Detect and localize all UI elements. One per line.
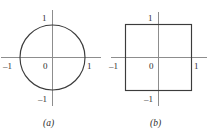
x-axis-tick-label-negative-a: –1 bbox=[3, 62, 12, 71]
y-axis-tick-label-positive-a: 1 bbox=[42, 14, 46, 23]
figure-sheet: 1 –1 0 1 –1 (a) 1 –1 0 1 –1 (b) bbox=[0, 0, 213, 135]
origin-label-a: 0 bbox=[43, 62, 47, 71]
x-axis-tick-label-negative-b: –1 bbox=[109, 62, 118, 71]
y-axis-tick-label-negative-a: –1 bbox=[38, 95, 47, 104]
figure-panel-a: 1 –1 0 1 –1 (a) bbox=[0, 0, 107, 135]
y-axis-tick-label-positive-b: 1 bbox=[148, 14, 152, 23]
x-axis-tick-label-positive-b: 1 bbox=[194, 62, 198, 71]
panel-caption-b: (b) bbox=[150, 118, 161, 128]
panel-caption-a: (a) bbox=[43, 118, 54, 128]
figure-panel-b: 1 –1 0 1 –1 (b) bbox=[106, 0, 213, 135]
x-axis-tick-label-positive-a: 1 bbox=[87, 62, 91, 71]
y-axis-tick-label-negative-b: –1 bbox=[144, 95, 153, 104]
origin-label-b: 0 bbox=[149, 62, 153, 71]
